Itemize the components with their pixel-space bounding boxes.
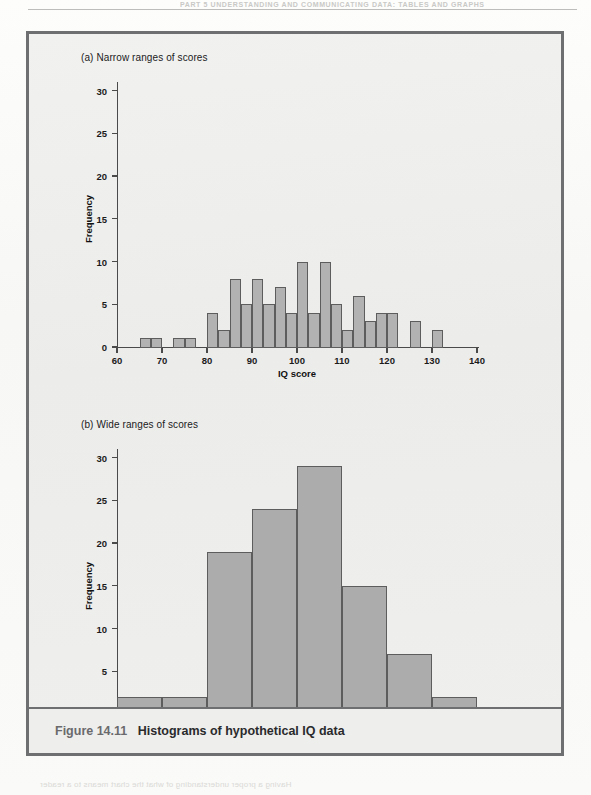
y-axis-title: Frequency [83, 194, 94, 242]
y-axis-tick [112, 175, 117, 176]
y-axis-label: 5 [87, 299, 107, 310]
histogram-bar [387, 313, 398, 348]
y-axis-tick [112, 304, 117, 305]
histogram-bar [275, 287, 286, 348]
x-axis-label: 70 [147, 355, 177, 366]
y-axis-label: 5 [87, 666, 107, 677]
figure-caption-title: Histograms of hypothetical IQ data [138, 724, 345, 738]
histogram-bar [376, 313, 387, 348]
x-axis-label: 120 [372, 355, 402, 366]
histogram-bar [297, 262, 308, 348]
x-axis-tick [206, 348, 207, 353]
histogram-bar [151, 338, 162, 348]
x-axis-tick [296, 348, 297, 353]
x-axis-label: 100 [282, 355, 312, 366]
y-axis-label: 20 [87, 171, 107, 182]
running-head: PART 5 UNDERSTANDING AND COMMUNICATING D… [180, 1, 580, 8]
histogram-bar [230, 279, 241, 348]
histogram-bar [185, 338, 196, 348]
x-axis-title: IQ score [278, 368, 316, 379]
histogram-bar [308, 313, 319, 348]
figure-caption: Figure 14.11 Histograms of hypothetical … [29, 707, 561, 753]
y-axis-label: 10 [87, 623, 107, 634]
x-axis-tick [251, 348, 252, 353]
y-axis-tick [112, 90, 117, 91]
histogram-bar [207, 313, 218, 348]
histogram-bar [410, 321, 421, 348]
figure-caption-text: Figure 14.11 Histograms of hypothetical … [55, 724, 345, 738]
y-axis-line [117, 449, 118, 715]
histogram-bar [286, 313, 297, 348]
histogram-bar [365, 321, 376, 348]
y-axis-label: 20 [87, 538, 107, 549]
histogram-bar [218, 330, 229, 348]
histogram-bar [252, 509, 297, 715]
x-axis-label: 60 [102, 355, 132, 366]
y-axis-label: 25 [87, 128, 107, 139]
x-axis-label: 130 [417, 355, 447, 366]
header-rule [28, 9, 577, 10]
histogram-bar [207, 552, 252, 715]
y-axis-tick [112, 628, 117, 629]
histogram-bar [342, 586, 387, 715]
x-axis-tick [386, 348, 387, 353]
histogram-bar [173, 338, 184, 348]
y-axis-tick [112, 671, 117, 672]
y-axis-label: 30 [87, 85, 107, 96]
x-axis-tick [161, 348, 162, 353]
panel-b-title: (b) Wide ranges of scores [81, 419, 198, 430]
histogram-bar [320, 262, 331, 348]
histogram-bar [331, 304, 342, 348]
y-axis-line [117, 82, 118, 348]
x-axis-tick [431, 348, 432, 353]
y-axis-label: 30 [87, 452, 107, 463]
x-axis-label: 110 [327, 355, 357, 366]
x-axis-tick [116, 348, 117, 353]
x-axis-tick [341, 348, 342, 353]
x-axis-tick [476, 348, 477, 353]
x-axis-label: 80 [192, 355, 222, 366]
histogram-bar [297, 466, 342, 715]
histogram-bar [263, 304, 274, 348]
y-axis-tick [112, 585, 117, 586]
histogram-bar [353, 296, 364, 348]
histogram-narrow-plot: 05101520253060708090100110120130140IQ sc… [117, 82, 477, 347]
y-axis-tick [112, 457, 117, 458]
histogram-bar [241, 304, 252, 348]
x-axis-label: 90 [237, 355, 267, 366]
y-axis-tick [112, 133, 117, 134]
histogram-bar [387, 654, 432, 715]
histogram-bar [252, 279, 263, 348]
y-axis-label: 25 [87, 495, 107, 506]
histogram-bar [140, 338, 151, 348]
histogram-bar [432, 330, 443, 348]
y-axis-label: 10 [87, 256, 107, 267]
y-axis-title: Frequency [83, 561, 94, 609]
y-axis-label: 0 [87, 342, 107, 353]
figure-caption-label: Figure 14.11 [55, 724, 127, 738]
x-axis-label: 140 [462, 355, 492, 366]
y-axis-tick [112, 500, 117, 501]
y-axis-tick [112, 542, 117, 543]
y-axis-tick [112, 261, 117, 262]
histogram-bar [342, 330, 353, 348]
panel-a-title: (a) Narrow ranges of scores [81, 52, 208, 63]
figure-box: (a) Narrow ranges of scores 051015202530… [26, 31, 564, 756]
histogram-wide-plot: 05101520253060708090100110120130140IQ sc… [117, 449, 477, 714]
y-axis-tick [112, 218, 117, 219]
